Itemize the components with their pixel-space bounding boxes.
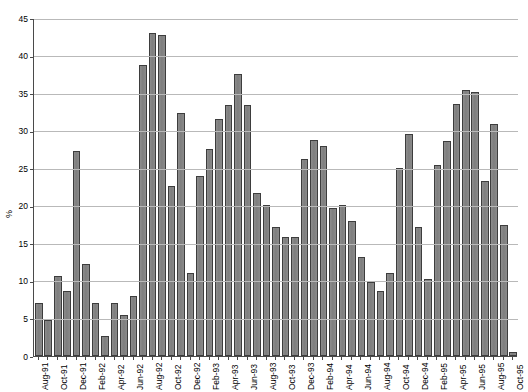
x-axis-tick-label: Oct-92 xyxy=(174,364,183,390)
x-axis-tick-mark xyxy=(114,357,115,360)
y-axis-tick-label: 15 xyxy=(2,240,28,248)
x-axis-tick-label: Apr-93 xyxy=(231,364,240,390)
y-axis-tick-mark xyxy=(30,357,33,358)
bar xyxy=(490,124,498,356)
x-axis-tick-mark xyxy=(161,357,162,360)
bar xyxy=(253,193,261,356)
bar xyxy=(92,303,100,356)
gridline xyxy=(34,281,518,282)
x-axis-tick-label: Apr-94 xyxy=(345,364,354,390)
y-axis-tick-mark xyxy=(30,19,33,20)
x-axis-tick-label: Aug-91 xyxy=(41,363,50,390)
bar xyxy=(291,237,299,356)
x-axis-tick-mark xyxy=(142,357,143,360)
y-axis-tick-label: 5 xyxy=(2,315,28,323)
x-axis-tick-mark xyxy=(313,357,314,360)
bar xyxy=(158,35,166,356)
x-axis-tick-mark xyxy=(47,357,48,360)
bar xyxy=(358,257,366,356)
x-axis-tick-mark xyxy=(379,357,380,360)
x-axis-tick-mark xyxy=(503,357,504,360)
x-axis-tick-mark xyxy=(123,357,124,360)
bar xyxy=(196,176,204,356)
y-axis-tick-label: 45 xyxy=(2,15,28,23)
x-axis-tick-mark xyxy=(427,357,428,360)
y-axis-tick-mark xyxy=(30,282,33,283)
y-axis-tick-label: 0 xyxy=(2,353,28,361)
bar xyxy=(139,65,147,356)
bar xyxy=(310,140,318,356)
bar xyxy=(301,159,309,356)
x-axis-tick-mark xyxy=(76,357,77,360)
x-axis-tick-label: Aug-93 xyxy=(269,363,278,390)
y-axis-title: % xyxy=(4,210,14,218)
x-axis-tick-label: Jun-92 xyxy=(136,364,145,390)
x-axis-tick-mark xyxy=(389,357,390,360)
x-axis-tick-mark xyxy=(417,357,418,360)
x-axis-tick-mark xyxy=(294,357,295,360)
x-axis-tick-mark xyxy=(436,357,437,360)
bar xyxy=(82,264,90,356)
x-axis-tick-label: Apr-92 xyxy=(117,364,126,390)
gridline xyxy=(34,94,518,95)
bar xyxy=(206,149,214,356)
bar xyxy=(500,225,508,356)
x-axis-tick-mark xyxy=(493,357,494,360)
x-axis-tick-mark xyxy=(322,357,323,360)
x-axis-tick-label: Jun-95 xyxy=(478,364,487,390)
x-axis-tick-label: Feb-94 xyxy=(326,363,335,390)
x-axis-tick-mark xyxy=(446,357,447,360)
bar xyxy=(111,303,119,356)
bar xyxy=(462,90,470,356)
bar xyxy=(377,291,385,356)
gridline xyxy=(34,131,518,132)
x-axis-tick-mark xyxy=(360,357,361,360)
x-axis-tick-mark xyxy=(266,357,267,360)
y-axis-tick-mark xyxy=(30,319,33,320)
x-axis-tick-mark xyxy=(199,357,200,360)
x-axis-tick-label: Feb-93 xyxy=(212,363,221,390)
bar xyxy=(434,165,442,356)
x-axis-tick-label: Jun-94 xyxy=(364,364,373,390)
x-axis-tick-label: Jun-93 xyxy=(250,364,259,390)
bar xyxy=(215,119,223,356)
x-axis-tick-mark xyxy=(341,357,342,360)
bar xyxy=(35,303,43,356)
bar xyxy=(73,151,81,356)
x-axis-tick-label: Dec-92 xyxy=(193,363,202,390)
x-axis-tick-mark xyxy=(104,357,105,360)
bar xyxy=(63,291,71,356)
bar xyxy=(320,146,328,356)
x-axis-tick-mark xyxy=(95,357,96,360)
bar xyxy=(187,273,195,356)
x-axis-tick-label: Aug-95 xyxy=(497,363,506,390)
gridline xyxy=(34,319,518,320)
bar xyxy=(272,227,280,356)
x-axis-tick-label: Apr-95 xyxy=(459,364,468,390)
x-axis-tick-mark xyxy=(351,357,352,360)
y-axis-tick-label: 30 xyxy=(2,127,28,135)
x-axis-tick-label: Aug-94 xyxy=(383,363,392,390)
x-axis-tick-mark xyxy=(237,357,238,360)
x-axis-tick-mark xyxy=(190,357,191,360)
y-axis-tick-label: 10 xyxy=(2,277,28,285)
x-axis-tick-mark xyxy=(275,357,276,360)
bar xyxy=(101,336,109,356)
y-axis-tick-mark xyxy=(30,207,33,208)
y-axis-tick-mark xyxy=(30,57,33,58)
bar xyxy=(348,221,356,356)
x-axis-tick-mark xyxy=(133,357,134,360)
x-axis-tick-mark xyxy=(284,357,285,360)
bar xyxy=(120,315,128,356)
bar xyxy=(443,141,451,356)
x-axis-tick-label: Dec-94 xyxy=(421,363,430,390)
plot-area xyxy=(33,19,517,357)
x-axis-tick-label: Feb-95 xyxy=(440,363,449,390)
x-axis-tick-mark xyxy=(408,357,409,360)
x-axis-tick-mark xyxy=(38,357,39,360)
x-axis-tick-mark xyxy=(474,357,475,360)
gridline xyxy=(34,169,518,170)
gridline xyxy=(34,206,518,207)
x-axis-tick-label: Oct-93 xyxy=(288,364,297,390)
y-axis-tick-mark xyxy=(30,169,33,170)
